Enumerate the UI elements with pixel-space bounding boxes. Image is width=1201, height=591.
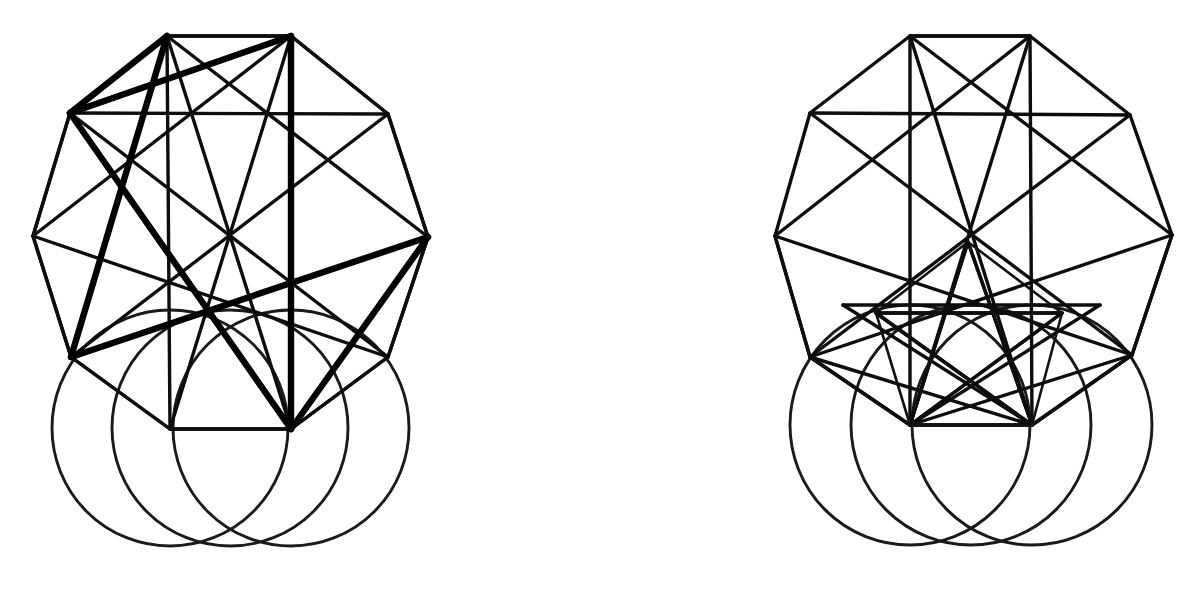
right-inner-star (876, 242, 1062, 425)
chord-line (388, 237, 428, 357)
chord-line (810, 235, 1172, 357)
chord-line (33, 36, 291, 236)
chord-line (71, 357, 170, 429)
chord-line (775, 36, 1030, 236)
bold-pentagram (291, 237, 428, 429)
diagram-canvas (0, 0, 1201, 591)
left-figure (0, 0, 601, 591)
chord-line (810, 113, 1130, 115)
chord-line (70, 113, 388, 114)
chord-line (1132, 235, 1172, 355)
chord-line (910, 36, 1172, 235)
chord-line (810, 357, 910, 425)
left-bold-extras (70, 36, 291, 429)
inner-star-polygon (910, 313, 1062, 425)
chord-line (33, 236, 71, 357)
chord-line (33, 113, 70, 236)
chord-line (775, 236, 810, 357)
chord-line (388, 114, 428, 237)
inner-star-polygon (876, 313, 1032, 425)
right-inner-fan (810, 242, 1132, 425)
chord-line (291, 357, 388, 429)
right-figure (600, 0, 1201, 591)
chord-line (291, 36, 388, 114)
